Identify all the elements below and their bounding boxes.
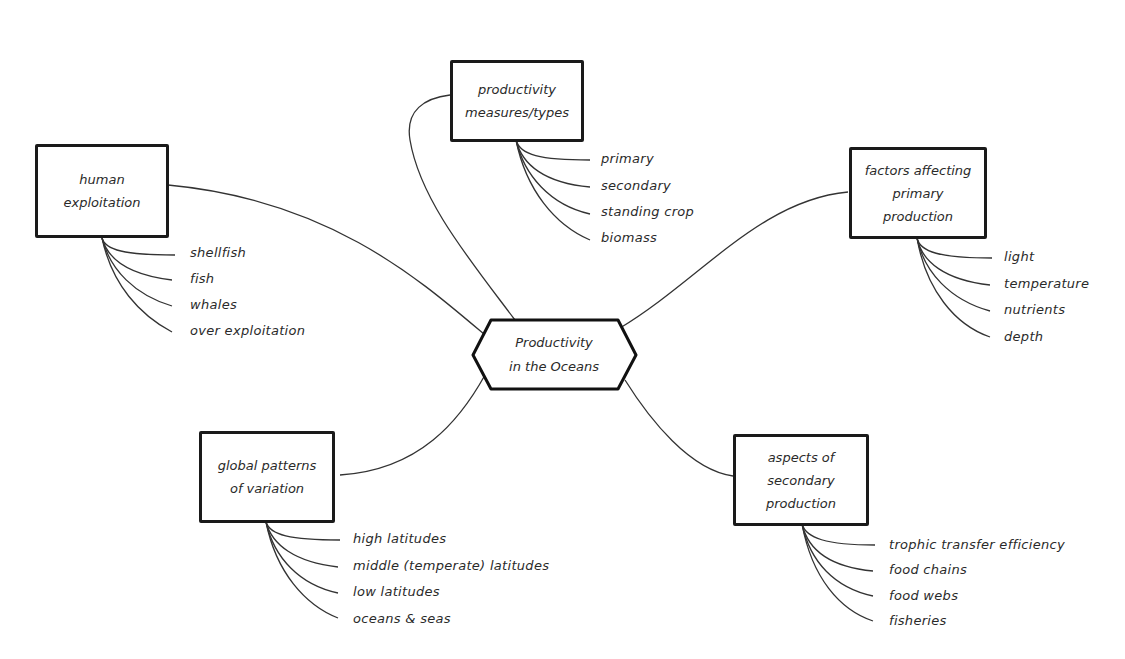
leaf-item: temperature xyxy=(1004,276,1089,291)
node-label: production xyxy=(766,492,836,515)
leaf-item: light xyxy=(1004,249,1034,264)
link-center-secondary xyxy=(625,380,733,476)
leaf-item: whales xyxy=(190,297,237,312)
branch-human-exploitation: human exploitation xyxy=(35,144,169,238)
node-label: of variation xyxy=(230,477,304,500)
link-center-global xyxy=(340,375,485,475)
central-node-line-2: in the Oceans xyxy=(509,355,599,379)
leaf-item: trophic transfer efficiency xyxy=(889,537,1065,552)
leaf-item: depth xyxy=(1004,329,1043,344)
node-label: aspects of xyxy=(768,446,835,469)
node-label: production xyxy=(883,205,953,228)
node-label: global patterns xyxy=(218,454,317,477)
branch-factors-primary: factors affecting primary production xyxy=(849,147,987,239)
leaf-item: secondary xyxy=(601,178,671,193)
central-node-line-1: Productivity xyxy=(515,331,593,355)
node-label: human xyxy=(79,168,124,191)
node-label: productivity xyxy=(478,78,556,101)
branch-global-patterns: global patterns of variation xyxy=(199,431,335,523)
leaf-item: middle (temperate) latitudes xyxy=(353,558,549,573)
leaf-item: fisheries xyxy=(889,613,947,628)
leaf-item: nutrients xyxy=(1004,302,1065,317)
branch-secondary-production: aspects of secondary production xyxy=(733,434,869,526)
leaf-item: fish xyxy=(190,271,214,286)
link-center-human xyxy=(168,185,485,335)
leaf-item: oceans & seas xyxy=(353,611,451,626)
leaf-item: high latitudes xyxy=(353,531,446,546)
node-label: factors affecting xyxy=(865,159,972,182)
leaf-item: food webs xyxy=(889,588,958,603)
leaf-item: over exploitation xyxy=(190,323,305,338)
node-label: primary xyxy=(893,182,944,205)
leaf-item: biomass xyxy=(601,230,657,245)
leaf-item: low latitudes xyxy=(353,584,440,599)
leaf-item: shellfish xyxy=(190,245,246,260)
node-label: measures/types xyxy=(465,101,569,124)
leaf-item: primary xyxy=(601,151,654,166)
node-label: secondary xyxy=(767,469,834,492)
central-node: Productivity in the Oceans xyxy=(472,318,636,392)
node-label: exploitation xyxy=(63,191,140,214)
leaf-item: food chains xyxy=(889,562,967,577)
leaf-item: standing crop xyxy=(601,204,694,219)
branch-productivity-measures: productivity measures/types xyxy=(450,60,584,142)
